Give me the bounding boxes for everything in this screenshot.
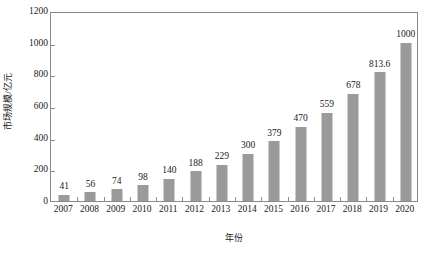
y-axis-title: 市场规模/亿元 [0, 0, 14, 202]
bar-value-label: 300 [241, 141, 255, 151]
x-axis-tick-label: 2010 [133, 205, 152, 215]
bar-value-label: 470 [294, 114, 308, 124]
bar-chart-figure: 市场规模/亿元 020040060080010001200 4156749814… [0, 0, 430, 253]
y-axis-tick-label: 800 [20, 71, 48, 81]
y-axis-tick-label: 0 [20, 197, 48, 207]
bar-group: 678 [340, 13, 366, 201]
y-axis-title-text: 市场规模/亿元 [1, 73, 14, 130]
x-axis-tick-label: 2011 [159, 205, 178, 215]
bar-value-label: 813.6 [369, 60, 390, 70]
bar-group: 470 [288, 13, 314, 201]
x-axis-tick-label: 2015 [264, 205, 283, 215]
bar-value-label: 559 [320, 100, 334, 110]
y-axis-tick-label: 400 [20, 134, 48, 144]
y-axis-tick-label: 1200 [20, 7, 48, 17]
bar[interactable] [111, 189, 122, 201]
x-axis-tick-label: 2016 [290, 205, 309, 215]
y-axis-tick-labels: 020040060080010001200 [16, 0, 48, 253]
bar-group: 140 [156, 13, 182, 201]
bar-value-label: 188 [188, 159, 202, 169]
bar-value-label: 56 [86, 180, 96, 190]
x-axis-tick-label: 2018 [343, 205, 362, 215]
y-axis-tick-label: 200 [20, 166, 48, 176]
bar-group: 379 [261, 13, 287, 201]
x-axis-tick-label: 2012 [185, 205, 204, 215]
bar-value-label: 74 [112, 177, 122, 187]
x-axis-tick-label: 2017 [317, 205, 336, 215]
bar[interactable] [59, 195, 70, 201]
bar[interactable] [321, 113, 332, 202]
x-axis-tick-label: 2013 [211, 205, 230, 215]
x-axis-title-text: 年份 [225, 233, 243, 243]
bar-group: 1000 [393, 13, 419, 201]
bar[interactable] [374, 72, 385, 201]
x-axis-tick-label: 2019 [369, 205, 388, 215]
bar-value-label: 98 [138, 173, 148, 183]
bar-value-label: 1000 [396, 30, 415, 40]
x-axis-tick-label: 2014 [238, 205, 257, 215]
x-axis-tick-label: 2007 [54, 205, 73, 215]
y-axis-tick-label: 600 [20, 102, 48, 112]
bar-group: 98 [130, 13, 156, 201]
bar-group: 229 [209, 13, 235, 201]
bar-group: 41 [51, 13, 77, 201]
bar-group: 300 [235, 13, 261, 201]
bar[interactable] [137, 185, 148, 201]
bar[interactable] [190, 171, 201, 201]
bar-group: 559 [314, 13, 340, 201]
plot-area: 41567498140188229300379470559678813.6100… [50, 12, 418, 202]
bar[interactable] [269, 141, 280, 201]
x-axis-tick-label: 2008 [80, 205, 99, 215]
bar[interactable] [85, 192, 96, 201]
x-axis-tick-label: 2020 [395, 205, 414, 215]
bar-value-label: 678 [346, 81, 360, 91]
bar-value-label: 229 [215, 152, 229, 162]
bar[interactable] [348, 94, 359, 201]
x-axis-tick-label: 2009 [106, 205, 125, 215]
x-axis-title: 年份 [50, 231, 418, 244]
bar[interactable] [400, 43, 411, 201]
bar[interactable] [164, 179, 175, 201]
bar-group: 56 [77, 13, 103, 201]
bar-value-label: 140 [162, 166, 176, 176]
y-axis-tick-label: 1000 [20, 39, 48, 49]
bar[interactable] [216, 165, 227, 201]
bar-value-label: 41 [59, 182, 69, 192]
bar-value-label: 379 [267, 129, 281, 139]
x-axis-tick-labels: 2007200820092010201120122013201420152016… [50, 205, 418, 221]
bars-layer: 41567498140188229300379470559678813.6100… [51, 13, 417, 201]
bar[interactable] [243, 154, 254, 202]
bar-group: 813.6 [366, 13, 392, 201]
bar-group: 188 [182, 13, 208, 201]
bar[interactable] [295, 127, 306, 201]
bar-group: 74 [104, 13, 130, 201]
